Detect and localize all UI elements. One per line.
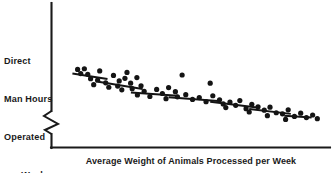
y-axis-label: Direct Man Hours Operated per Week [4,30,50,173]
data-point [247,109,252,114]
figure-container: Direct Man Hours Operated per Week Avera… [0,0,334,173]
data-point [274,110,279,115]
data-point [237,98,242,103]
y-axis-label-line-1: Direct [4,55,50,68]
scatter-plot-figure [0,0,334,173]
data-point [103,80,108,85]
data-point [147,94,152,99]
data-point [315,116,320,121]
data-point [95,78,100,83]
y-axis-label-line-2: Man Hours [4,93,50,106]
data-point [249,102,254,107]
data-point [115,84,120,89]
data-point [142,89,147,94]
data-point [175,94,180,99]
data-point [117,78,122,83]
data-point [283,117,288,122]
data-point [111,73,116,78]
data-point [208,81,213,86]
data-point [304,115,309,120]
data-point [163,96,168,101]
data-point [233,103,238,108]
data-point [180,72,185,77]
data-point [97,68,102,73]
data-point [82,66,87,71]
data-point [203,99,208,104]
data-point [292,114,297,119]
data-point [88,76,93,81]
data-point [210,93,215,98]
data-point [166,85,171,90]
data-point [190,97,195,102]
data-point [122,76,127,81]
data-point [128,81,133,86]
data-point [197,95,202,100]
data-point [106,85,111,90]
y-axis-label-line-3: Operated [4,131,50,144]
data-point [91,82,96,87]
x-axis-label: Average Weight of Animals Processed per … [52,156,330,166]
y-axis-label-line-4: per Week [4,169,50,173]
data-point [119,87,124,92]
data-point [262,108,267,113]
data-point [265,113,270,118]
data-point [267,105,272,110]
data-point [138,83,143,88]
data-point [134,75,139,80]
data-point [124,70,129,75]
data-point [183,92,188,97]
data-point [78,71,83,76]
data-point [173,89,178,94]
data-point [130,86,135,91]
data-point [298,111,303,116]
data-point [286,107,291,112]
data-point [154,87,159,92]
data-points-group [75,66,320,122]
data-point [217,97,222,102]
data-point [160,91,165,96]
data-point [310,112,315,117]
data-point [85,72,90,77]
data-point [255,104,260,109]
data-point [227,99,232,104]
data-point [280,111,285,116]
data-point [223,105,228,110]
data-point [135,92,140,97]
